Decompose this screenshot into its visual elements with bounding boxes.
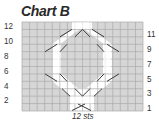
row-label-8: 8 [4,50,9,61]
stitch-count-label: 12 sts [72,110,94,121]
knitting-chart-grid [0,0,159,127]
row-label-6: 6 [4,65,9,76]
row-label-5: 5 [147,73,152,84]
row-label-10: 10 [4,35,13,46]
row-label-9: 9 [147,43,152,54]
row-label-3: 3 [147,87,152,98]
row-label-7: 7 [147,58,152,69]
row-label-12: 12 [4,20,13,31]
row-label-11: 11 [147,28,155,39]
row-label-4: 4 [4,80,9,91]
row-label-1: 1 [147,102,152,113]
row-label-2: 2 [4,94,9,105]
